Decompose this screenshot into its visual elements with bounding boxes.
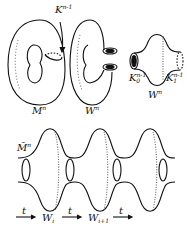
- label-k1: Kn-11: [166, 72, 177, 84]
- label-t1: t: [22, 206, 26, 216]
- arrowhead-icon: [60, 47, 65, 52]
- t-arrows: [16, 215, 132, 219]
- cut-torus-w: [70, 20, 117, 105]
- label-w1: Wn: [85, 105, 99, 116]
- k-pointer-arrow: [60, 22, 63, 50]
- cyclic-cover: [18, 129, 175, 212]
- label-k0: Kn-10: [129, 72, 140, 84]
- torus-m: [8, 20, 65, 105]
- label-m: Mn: [32, 105, 46, 116]
- label-mtilde: M̃n: [17, 142, 31, 153]
- label-t3: t: [119, 206, 123, 216]
- label-w2: Wn: [148, 89, 162, 100]
- label-t2: t: [68, 206, 72, 216]
- label-wi1: Wi+1: [88, 213, 109, 224]
- label-wi: Wi: [42, 213, 54, 224]
- diagram-canvas: [0, 0, 187, 233]
- label-k: Kn-1: [55, 4, 72, 15]
